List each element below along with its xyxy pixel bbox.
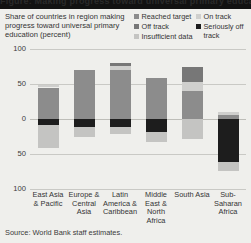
bar-segment — [182, 82, 203, 91]
figure-container: Figure: Making progress toward universal… — [0, 0, 251, 243]
x-axis-tick-label: East Asia & Pacific — [30, 191, 66, 208]
bar-segment — [74, 119, 95, 127]
bar-group[interactable] — [74, 49, 95, 189]
legend-swatch-off-track-icon — [134, 24, 139, 29]
bar-segment — [182, 67, 203, 82]
bar-segment — [182, 119, 203, 139]
chart-plot-area — [30, 49, 246, 189]
legend-item-insufficient-data: Insufficient data — [134, 32, 196, 41]
legend-item-off-track: Off track — [134, 22, 196, 31]
legend-swatch-reached-target-icon — [134, 14, 139, 19]
bar-group[interactable] — [38, 49, 59, 189]
legend-label-seriously-off-track: Seriously off track — [204, 22, 251, 40]
bar-group[interactable] — [182, 49, 203, 189]
bar-segment — [146, 132, 167, 143]
y-axis-tick-label: 50 — [0, 80, 26, 88]
bar-group[interactable] — [146, 49, 167, 189]
figure-headline-strip: Figure: Making progress toward universal… — [0, 0, 251, 9]
x-axis-tick-label: South Asia — [174, 191, 210, 200]
x-axis-tick-label: Latin America & Caribbean — [102, 191, 138, 217]
bar-segment — [38, 88, 59, 120]
bar-segment — [218, 162, 239, 171]
y-axis-tick-label: 50 — [0, 150, 26, 158]
bar-segment — [146, 119, 167, 132]
bar-segment — [110, 70, 131, 119]
legend-item-seriously-off-track: Seriously off track — [196, 22, 250, 40]
legend-item-reached-target: Reached target — [134, 12, 196, 21]
legend-label-insufficient-data: Insufficient data — [142, 32, 193, 41]
legend-column-left: Reached target Off track Insufficient da… — [134, 12, 196, 43]
bar-segment — [110, 63, 131, 66]
y-axis-tick-label: 100 — [0, 45, 26, 53]
legend-swatch-seriously-off-track-icon — [196, 24, 201, 29]
chart-bars — [30, 49, 246, 189]
chart-subtitle: Share of countries in region making prog… — [5, 12, 131, 39]
legend-label-on-track: On track — [204, 12, 232, 21]
legend-item-on-track: On track — [196, 12, 250, 21]
bar-segment — [110, 66, 131, 70]
y-axis-tick-label: 100 — [0, 185, 26, 193]
bar-segment — [182, 91, 203, 119]
legend-swatch-on-track-icon — [196, 14, 201, 19]
chart-source-note: Source: World Bank staff estimates. — [5, 228, 122, 237]
bar-segment — [218, 112, 239, 115]
x-axis-tick-label: Europe & Central Asia — [66, 191, 102, 217]
legend-label-reached-target: Reached target — [142, 12, 192, 21]
bar-segment — [38, 85, 59, 88]
bar-segment — [74, 70, 95, 119]
bar-group[interactable] — [110, 49, 131, 189]
x-axis-tick-label: Sub-Saharan Africa — [210, 191, 246, 217]
bar-segment — [146, 78, 167, 119]
y-axis-tick-label: 0 — [0, 115, 26, 123]
figure-headline: Figure: Making progress toward universal… — [0, 0, 251, 6]
bar-segment — [110, 127, 131, 134]
legend-column-right: On track Seriously off track — [196, 12, 250, 42]
bar-segment — [74, 127, 95, 138]
x-axis-tick-label: Middle East & North Africa — [138, 191, 174, 225]
legend-swatch-insufficient-data-icon — [134, 34, 139, 39]
legend-label-off-track: Off track — [142, 22, 169, 31]
bar-segment — [110, 119, 131, 127]
bar-segment — [38, 125, 59, 148]
bar-segment — [218, 119, 239, 162]
bar-group[interactable] — [218, 49, 239, 189]
